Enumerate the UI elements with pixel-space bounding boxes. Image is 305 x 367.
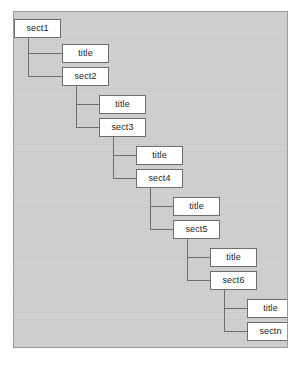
- node-label: title: [115, 100, 130, 109]
- connector-sect1-to-title1: [28, 38, 62, 54]
- node-label: sect2: [74, 72, 96, 81]
- node-label: title: [226, 253, 241, 262]
- node-sect1[interactable]: sect1: [14, 19, 61, 38]
- node-title6[interactable]: title: [247, 299, 288, 318]
- node-title2[interactable]: title: [99, 95, 146, 114]
- diagram-panel: sect1titlesect2titlesect3titlesect4title…: [13, 11, 288, 348]
- connector-sect4-to-title4: [150, 188, 173, 207]
- node-sect3[interactable]: sect3: [99, 118, 146, 137]
- node-label: title: [189, 202, 204, 211]
- node-label: title: [152, 151, 167, 160]
- node-label: sect5: [185, 225, 207, 234]
- node-sect5[interactable]: sect5: [173, 220, 220, 239]
- node-label: title: [78, 49, 93, 58]
- node-label: sect1: [26, 24, 48, 33]
- node-sect4[interactable]: sect4: [136, 169, 183, 188]
- connector-sect5-to-title5: [187, 239, 210, 258]
- connector-sect3-to-title3: [113, 137, 136, 156]
- node-sectn[interactable]: sectn: [247, 322, 288, 341]
- node-label: sectn: [259, 327, 281, 336]
- node-title4[interactable]: title: [173, 197, 220, 216]
- connector-sect2-to-title2: [76, 86, 99, 105]
- connector-sect1-to-sect2: [28, 38, 62, 77]
- node-title1[interactable]: title: [62, 44, 109, 63]
- node-sect6[interactable]: sect6: [210, 271, 257, 290]
- node-label: title: [263, 304, 278, 313]
- node-title5[interactable]: title: [210, 248, 257, 267]
- node-sect2[interactable]: sect2: [62, 67, 109, 86]
- connector-sect6-to-sectn: [224, 290, 247, 332]
- connector-sect5-to-sect6: [187, 239, 210, 281]
- connector-sect4-to-sect5: [150, 188, 173, 230]
- node-title3[interactable]: title: [136, 146, 183, 165]
- connector-sect3-to-sect4: [113, 137, 136, 179]
- node-label: sect3: [111, 123, 133, 132]
- node-label: sect6: [222, 276, 244, 285]
- connector-sect2-to-sect3: [76, 86, 99, 128]
- connector-sect6-to-title6: [224, 290, 247, 309]
- node-label: sect4: [148, 174, 170, 183]
